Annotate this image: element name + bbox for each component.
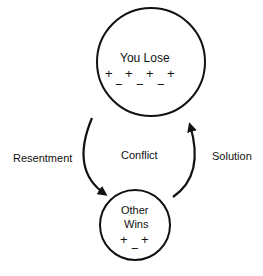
- plus-sign: +: [120, 233, 128, 246]
- minus-sign: −: [115, 78, 123, 91]
- resentment-arrow: [84, 118, 105, 194]
- resentment-label: Resentment: [13, 153, 72, 164]
- plus-sign: +: [167, 67, 175, 80]
- plus-sign: +: [105, 67, 113, 80]
- bottom-node-label-line1: Other: [121, 205, 149, 216]
- solution-arrow: [173, 125, 195, 197]
- bottom-node-label-line2: Wins: [124, 219, 148, 230]
- cycle-diagram-graphics: [0, 0, 263, 276]
- minus-sign: −: [136, 78, 144, 91]
- plus-sign: +: [141, 233, 149, 246]
- minus-sign: −: [157, 78, 165, 91]
- top-node-label: You Lose: [120, 52, 170, 64]
- plus-sign: +: [125, 67, 133, 80]
- solution-label: Solution: [212, 151, 252, 162]
- minus-sign: −: [131, 242, 139, 255]
- conflict-label: Conflict: [121, 150, 158, 161]
- plus-sign: +: [146, 67, 154, 80]
